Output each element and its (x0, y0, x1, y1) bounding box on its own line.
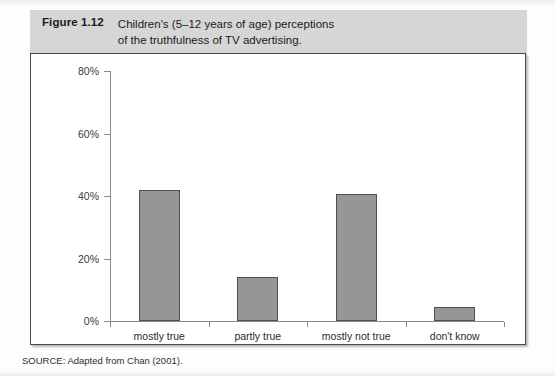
category-label: mostly true (134, 330, 185, 342)
scan-edge-top (0, 0, 555, 8)
figure-caption: Figure 1.12Children's (5–12 years of age… (42, 16, 521, 48)
bar-don-t-know (434, 307, 475, 321)
figure-caption-line-2: of the truthfulness of TV advertising. (118, 32, 334, 48)
y-axis-tick-label: 40% (78, 190, 99, 202)
x-axis-tick (406, 322, 407, 327)
bar-partly-true (237, 277, 278, 321)
y-axis-tick-label: 60% (78, 128, 99, 140)
chart-frame: 0%20%40%60%80% mostly truepartly truemos… (30, 53, 526, 345)
y-axis-tick-label: 80% (78, 65, 99, 77)
y-axis-line (110, 71, 111, 322)
figure-number: Figure 1.12 (42, 16, 104, 28)
y-axis-tick-label: 0% (84, 315, 99, 327)
scanned-page: Figure 1.12Children's (5–12 years of age… (0, 0, 555, 376)
y-axis-tick: 60% (104, 134, 110, 135)
category-label: don't know (430, 330, 480, 342)
figure-caption-text: Children's (5–12 years of age) perceptio… (118, 16, 334, 48)
y-axis-tick-label: 20% (78, 253, 99, 265)
bar-chart-plot-area: 0%20%40%60%80% mostly truepartly truemos… (31, 54, 525, 344)
y-axis-tick: 80% (104, 71, 110, 72)
y-axis-tick: 40% (104, 196, 110, 197)
source-note: SOURCE: Adapted from Chan (2001). (22, 355, 183, 366)
bar-mostly-not-true (336, 194, 377, 321)
category-label: partly true (234, 330, 281, 342)
x-axis-tick (110, 322, 111, 327)
figure-caption-band: Figure 1.12Children's (5–12 years of age… (30, 10, 527, 55)
x-axis-tick (504, 322, 505, 327)
y-axis-tick: 20% (104, 259, 110, 260)
x-axis-tick (209, 322, 210, 327)
bar-mostly-true (139, 190, 180, 321)
scan-edge-bottom (0, 370, 555, 376)
figure-caption-line-1: Children's (5–12 years of age) perceptio… (118, 16, 334, 32)
category-label: mostly not true (322, 330, 391, 342)
x-axis-tick (307, 322, 308, 327)
